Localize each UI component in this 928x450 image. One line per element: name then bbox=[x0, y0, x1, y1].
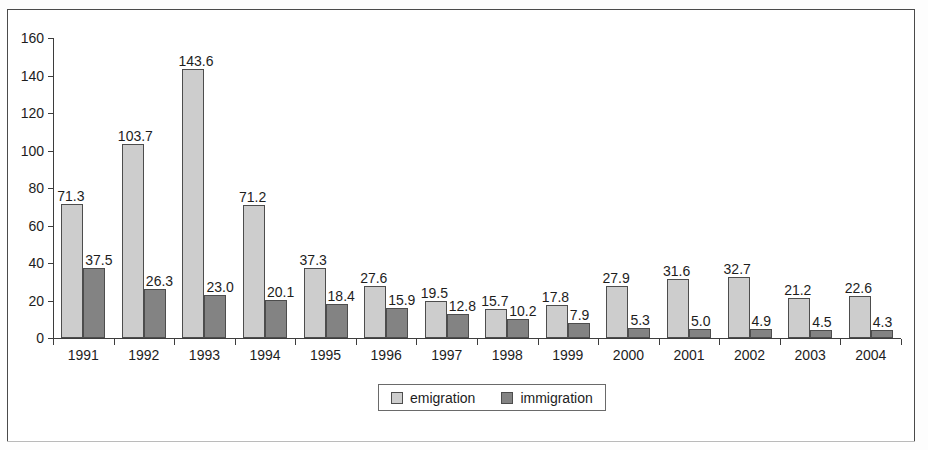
bar-value-label: 21.2 bbox=[784, 283, 811, 297]
y-tick-label: 80 bbox=[28, 180, 44, 196]
y-tick-label: 60 bbox=[28, 218, 44, 234]
legend-label-immigration: immigration bbox=[520, 390, 592, 406]
y-tick-label: 160 bbox=[21, 30, 44, 46]
bar-group: 27.615.9 bbox=[364, 38, 408, 338]
bar-value-label: 5.0 bbox=[691, 314, 710, 328]
bar-emigration: 31.6 bbox=[667, 279, 689, 338]
x-tick-label: 1991 bbox=[53, 347, 113, 363]
bar-group: 15.710.2 bbox=[485, 38, 529, 338]
bar-immigration: 23.0 bbox=[204, 295, 226, 338]
x-tick-label: 1996 bbox=[356, 347, 416, 363]
x-tick bbox=[719, 339, 720, 345]
bar-emigration: 32.7 bbox=[728, 277, 750, 338]
bar-emigration: 27.9 bbox=[606, 286, 628, 338]
x-tick bbox=[235, 339, 236, 345]
x-tick bbox=[53, 339, 54, 345]
x-tick-label: 2001 bbox=[659, 347, 719, 363]
bar-value-label: 143.6 bbox=[178, 54, 213, 68]
x-tick bbox=[840, 339, 841, 345]
x-tick bbox=[174, 339, 175, 345]
bar-group: 19.512.8 bbox=[425, 38, 469, 338]
chart-legend: emigration immigration bbox=[378, 384, 606, 411]
bar-immigration: 5.0 bbox=[689, 329, 711, 338]
bar-value-label: 19.5 bbox=[421, 286, 448, 300]
bar-immigration: 7.9 bbox=[568, 323, 590, 338]
bar-immigration: 20.1 bbox=[265, 300, 287, 338]
y-tick bbox=[48, 263, 54, 264]
x-tick-label: 1995 bbox=[296, 347, 356, 363]
bar-value-label: 4.3 bbox=[873, 315, 892, 329]
legend-entry-emigration: emigration bbox=[391, 390, 475, 406]
bar-value-label: 20.1 bbox=[267, 285, 294, 299]
bar-emigration: 71.2 bbox=[243, 205, 265, 339]
bar-group: 17.87.9 bbox=[546, 38, 590, 338]
bar-emigration: 103.7 bbox=[122, 144, 144, 338]
y-tick bbox=[48, 301, 54, 302]
bar-value-label: 26.3 bbox=[146, 274, 173, 288]
bar-emigration: 27.6 bbox=[364, 286, 386, 338]
bar-group: 32.74.9 bbox=[728, 38, 772, 338]
x-tick bbox=[477, 339, 478, 345]
x-tick bbox=[598, 339, 599, 345]
x-tick bbox=[780, 339, 781, 345]
bar-group: 37.318.4 bbox=[304, 38, 348, 338]
bar-value-label: 7.9 bbox=[570, 308, 589, 322]
bar-immigration: 4.9 bbox=[750, 329, 772, 338]
y-tick-label: 40 bbox=[28, 255, 44, 271]
bar-group: 71.220.1 bbox=[243, 38, 287, 338]
bar-emigration: 71.3 bbox=[61, 204, 83, 338]
x-tick-label: 1992 bbox=[114, 347, 174, 363]
bar-value-label: 71.3 bbox=[57, 189, 84, 203]
bar-value-label: 103.7 bbox=[118, 129, 153, 143]
bar-immigration: 12.8 bbox=[447, 314, 469, 338]
bar-immigration: 26.3 bbox=[144, 289, 166, 338]
y-tick-label: 20 bbox=[28, 293, 44, 309]
bar-value-label: 37.5 bbox=[85, 253, 112, 267]
x-tick bbox=[114, 339, 115, 345]
bar-group: 21.24.5 bbox=[788, 38, 832, 338]
bar-value-label: 10.2 bbox=[509, 304, 536, 318]
y-tick bbox=[48, 151, 54, 152]
bar-value-label: 37.3 bbox=[300, 253, 327, 267]
x-tick-label: 1997 bbox=[417, 347, 477, 363]
bar-value-label: 32.7 bbox=[724, 262, 751, 276]
bar-immigration: 5.3 bbox=[628, 328, 650, 338]
bar-value-label: 23.0 bbox=[206, 280, 233, 294]
bar-emigration: 19.5 bbox=[425, 301, 447, 338]
bar-value-label: 4.5 bbox=[812, 315, 831, 329]
bar-immigration: 18.4 bbox=[326, 304, 348, 339]
bar-immigration: 37.5 bbox=[83, 268, 105, 338]
bar-immigration: 4.5 bbox=[810, 330, 832, 338]
chart-page: 020406080100120140160 71.337.5103.726.31… bbox=[0, 0, 928, 450]
bar-emigration: 15.7 bbox=[485, 309, 507, 338]
x-tick-label: 1999 bbox=[538, 347, 598, 363]
x-tick-label: 1993 bbox=[174, 347, 234, 363]
legend-swatch-emigration bbox=[391, 392, 403, 404]
bar-emigration: 17.8 bbox=[546, 305, 568, 338]
x-tick-label: 2004 bbox=[841, 347, 901, 363]
bar-immigration: 4.3 bbox=[871, 330, 893, 338]
legend-label-emigration: emigration bbox=[410, 390, 475, 406]
x-tick-label: 1998 bbox=[477, 347, 537, 363]
bar-value-label: 15.9 bbox=[388, 293, 415, 307]
bar-group: 31.65.0 bbox=[667, 38, 711, 338]
y-tick bbox=[48, 226, 54, 227]
x-tick bbox=[659, 339, 660, 345]
legend-swatch-immigration bbox=[501, 392, 513, 404]
y-tick bbox=[48, 188, 54, 189]
plot-area: 020406080100120140160 71.337.5103.726.31… bbox=[53, 38, 901, 339]
x-tick-label: 1994 bbox=[235, 347, 295, 363]
page-rule bbox=[7, 441, 915, 442]
y-tick-label: 0 bbox=[36, 330, 44, 346]
bar-value-label: 4.9 bbox=[752, 314, 771, 328]
x-tick bbox=[538, 339, 539, 345]
x-tick bbox=[295, 339, 296, 345]
bar-value-label: 18.4 bbox=[328, 289, 355, 303]
x-tick-label: 2003 bbox=[780, 347, 840, 363]
bar-group: 22.64.3 bbox=[849, 38, 893, 338]
bar-emigration: 143.6 bbox=[182, 69, 204, 338]
bar-value-label: 31.6 bbox=[663, 264, 690, 278]
bar-value-label: 17.8 bbox=[542, 290, 569, 304]
y-tick-label: 100 bbox=[21, 143, 44, 159]
bar-group: 103.726.3 bbox=[122, 38, 166, 338]
